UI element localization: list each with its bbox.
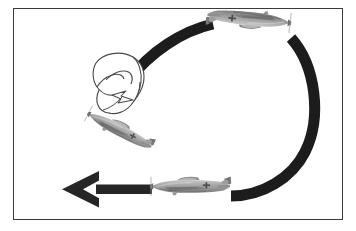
direction-arrow bbox=[62, 171, 152, 208]
trajectory-path bbox=[129, 24, 315, 196]
aircraft-apex bbox=[205, 4, 292, 33]
immelmann-turn-figure: Immelmann Turn Half loop followed by a h… bbox=[0, 0, 356, 231]
diagram-canvas bbox=[0, 0, 356, 231]
aircraft-start bbox=[150, 176, 231, 196]
half-roll-symbol bbox=[93, 53, 144, 113]
